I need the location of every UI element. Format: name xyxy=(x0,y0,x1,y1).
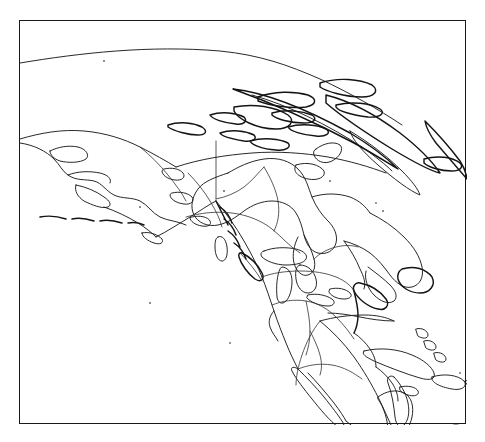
speck-artifact xyxy=(382,210,384,212)
caribbean-group xyxy=(363,328,467,425)
speck-artifact xyxy=(459,372,461,374)
boundary-us-mexico xyxy=(298,364,362,379)
lake-ontario xyxy=(329,288,351,299)
alaska-seward-peninsula xyxy=(50,146,88,162)
greenland-inner-edge xyxy=(252,95,392,171)
us-west-coast xyxy=(262,277,298,369)
boundary-mexico-interior xyxy=(296,321,320,385)
california-coast-bend xyxy=(269,311,278,341)
map-frame-border xyxy=(19,20,466,424)
hudson-strait-north xyxy=(312,194,370,213)
bahamas-chain xyxy=(416,328,446,362)
great-bear-lake xyxy=(162,168,184,180)
pacific-coast-group xyxy=(216,201,346,425)
mexico-pacific-coast xyxy=(346,421,426,425)
baja-california-peninsula xyxy=(291,367,344,425)
melville-peninsula xyxy=(314,143,342,163)
newfoundland-island xyxy=(398,267,434,293)
archipelago-cluster-east xyxy=(320,79,382,117)
scan-speck-group xyxy=(103,60,461,425)
alaska-north-slope-coast xyxy=(20,130,176,167)
alaska-west-coast xyxy=(20,143,186,225)
nova-scotia xyxy=(353,283,387,310)
great-lakes-group xyxy=(162,168,351,306)
british-columbia-coast-islands xyxy=(216,201,246,259)
archipelago-cluster-west xyxy=(168,113,255,141)
boundary-canada-central xyxy=(264,167,279,231)
canadian-arctic-archipelago-group xyxy=(168,79,462,195)
labrador-coast xyxy=(344,213,423,287)
hudson-bay-coastline xyxy=(192,158,337,253)
speck-artifact xyxy=(329,180,331,182)
speck-artifact xyxy=(149,302,151,304)
lake-superior xyxy=(261,248,307,265)
southampton-island xyxy=(295,163,325,179)
speck-artifact xyxy=(103,60,105,62)
boundary-us-west-interior xyxy=(272,300,354,339)
gulf-of-california xyxy=(308,373,346,421)
speck-artifact xyxy=(223,190,225,192)
boundary-prairie-north xyxy=(186,212,300,253)
arctic-northern-sweep-line xyxy=(20,49,402,125)
boundary-us-central xyxy=(306,301,310,355)
speck-artifact xyxy=(139,206,141,208)
speck-artifact xyxy=(229,342,231,344)
canada-mainland-group xyxy=(344,213,433,309)
arctic-rim-group xyxy=(20,49,467,179)
arctic-mainland-coast xyxy=(176,152,386,173)
boundary-canada-west xyxy=(216,167,264,199)
kodiak-island xyxy=(142,232,163,243)
north-america-outline-map xyxy=(20,21,467,425)
lake-erie xyxy=(307,294,334,306)
lake-winnipeg xyxy=(215,236,227,261)
alaska-group xyxy=(20,130,216,243)
map-page xyxy=(0,0,485,442)
gulf-of-st-lawrence xyxy=(365,267,396,303)
boundary-us-canada-49th xyxy=(262,271,354,291)
lake-huron xyxy=(296,265,317,293)
speck-artifact xyxy=(375,202,377,204)
hispaniola-island xyxy=(432,375,466,390)
baffin-island xyxy=(326,95,440,173)
internal-boundaries-group xyxy=(140,147,362,385)
cuba-island xyxy=(363,349,434,379)
boundary-mississippi-corridor xyxy=(310,331,322,375)
alaska-norton-sound xyxy=(68,172,111,183)
mexico-gulf-coast xyxy=(320,321,392,425)
